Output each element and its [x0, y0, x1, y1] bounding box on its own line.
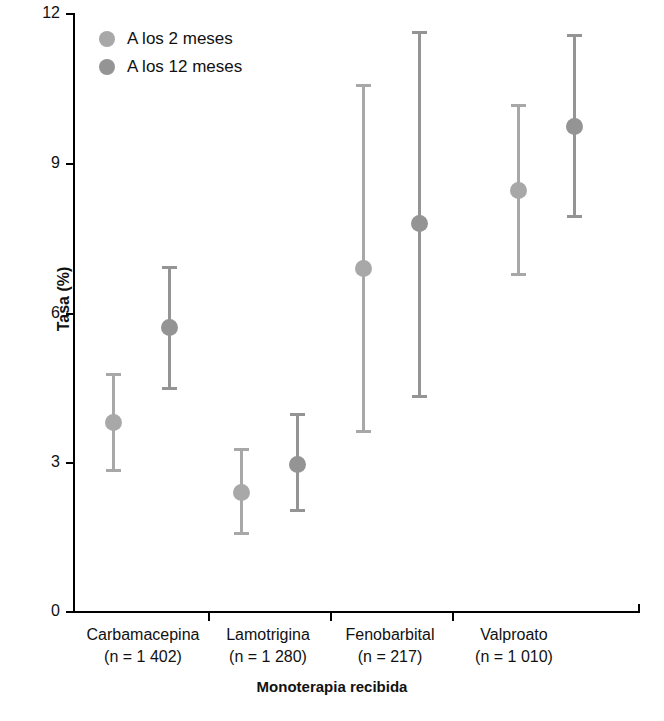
x-axis-title: Monoterapia recibida: [0, 678, 664, 695]
y-tick-12: [66, 13, 75, 15]
x-tick-divider-3: [452, 611, 454, 621]
y-tick-label-9: 9: [0, 155, 60, 171]
error-cap-upper: [356, 84, 371, 87]
error-cap-lower: [162, 387, 177, 390]
x-axis-line: [73, 611, 640, 613]
data-point: [510, 182, 527, 199]
category-name-1: Lamotrigina: [226, 626, 310, 643]
error-cap-upper: [412, 31, 427, 34]
legend-marker-12-meses-icon: [99, 59, 115, 75]
error-cap-lower: [234, 532, 249, 535]
x-axis-right-cap: [638, 604, 640, 613]
data-point: [161, 319, 178, 336]
data-point: [411, 215, 428, 232]
category-name-3: Valproato: [480, 626, 547, 643]
error-cap-upper: [162, 266, 177, 269]
y-tick-label-12: 12: [0, 5, 60, 21]
legend-label-0: A los 2 meses: [127, 29, 233, 49]
legend-label-1: A los 12 meses: [127, 57, 242, 77]
y-axis-title: Tasa (%): [55, 219, 73, 379]
legend-item-0[interactable]: A los 2 meses: [99, 25, 242, 53]
error-cap-lower: [567, 215, 582, 218]
legend-item-1[interactable]: A los 12 meses: [99, 53, 242, 81]
data-point: [105, 414, 122, 431]
error-cap-lower: [356, 430, 371, 433]
x-category-label-3: Valproato (n = 1 010): [434, 624, 594, 668]
error-cap-lower: [511, 273, 526, 276]
y-tick-0: [66, 611, 75, 613]
category-n-3: (n = 1 010): [434, 646, 594, 668]
data-point: [566, 118, 583, 135]
error-cap-upper: [106, 373, 121, 376]
chart-figure: 12 9 6 3 0 Tasa (%) Monoterapia recibida…: [0, 0, 664, 721]
error-cap-upper: [290, 413, 305, 416]
category-name-0: Carbamacepina: [87, 626, 200, 643]
x-tick-divider-2: [330, 611, 332, 621]
legend-marker-2-meses-icon: [99, 31, 115, 47]
y-tick-label-0: 0: [0, 603, 60, 619]
y-tick-label-6: 6: [0, 305, 60, 321]
error-bar: [362, 84, 365, 433]
error-cap-lower: [412, 395, 427, 398]
error-cap-lower: [290, 509, 305, 512]
data-point: [233, 484, 250, 501]
data-point: [289, 456, 306, 473]
error-cap-upper: [567, 34, 582, 37]
data-point: [355, 260, 372, 277]
y-tick-10.5: [66, 163, 75, 165]
error-cap-upper: [234, 448, 249, 451]
chart-legend: A los 2 meses A los 12 meses: [99, 25, 242, 81]
category-name-2: Fenobarbital: [346, 626, 435, 643]
x-tick-divider-1: [208, 611, 210, 621]
error-cap-lower: [106, 469, 121, 472]
y-tick-3: [66, 462, 75, 464]
error-cap-upper: [511, 104, 526, 107]
y-tick-label-3: 3: [0, 454, 60, 470]
